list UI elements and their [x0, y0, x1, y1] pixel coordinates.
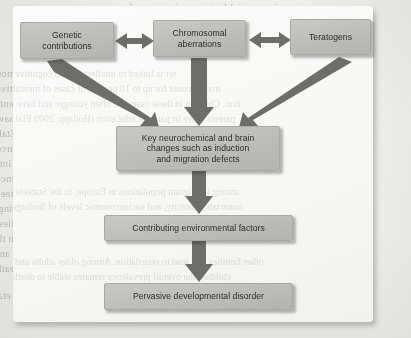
edge-genetic-key: [47, 59, 160, 131]
node-teratogens[interactable]: Teratogens: [290, 19, 371, 55]
node-label: Contributing environmental factors: [132, 223, 265, 234]
node-label: Genetic contributions: [42, 30, 91, 51]
node-label: Chromosomal aberrations: [172, 28, 226, 49]
node-label: Pervasive developmental disorder: [133, 291, 264, 302]
node-chromosomal-aberrations[interactable]: Chromosomal aberrations: [153, 20, 246, 57]
edge-contributing-pervasive: [185, 241, 213, 282]
node-label: Teratogens: [309, 32, 352, 43]
flowchart: Genetic contributions Chromosomal aberra…: [0, 0, 411, 338]
edge-chromosomal-teratogens: [249, 32, 291, 48]
edge-key-contributing: [185, 171, 213, 214]
node-genetic-contributions[interactable]: Genetic contributions: [20, 22, 114, 59]
edge-genetic-chromosomal: [115, 33, 154, 49]
node-key-neurochemical-brain-changes[interactable]: Key neurochemical and brain changes such…: [116, 126, 280, 171]
edge-teratogens-key: [238, 57, 352, 131]
node-label: Key neurochemical and brain changes such…: [142, 133, 255, 165]
edge-chromosomal-key: [184, 58, 214, 126]
node-pervasive-developmental-disorder[interactable]: Pervasive developmental disorder: [104, 283, 293, 310]
node-contributing-environmental-factors[interactable]: Contributing environmental factors: [104, 215, 293, 241]
